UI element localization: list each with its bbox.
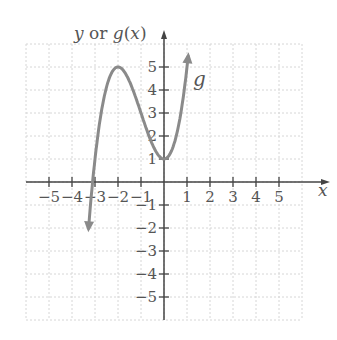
x-tick-label: 1	[182, 188, 192, 206]
x-tick-label: 4	[251, 188, 261, 206]
y-tick-label: 5	[147, 58, 157, 76]
y-tick-label: 4	[147, 81, 157, 99]
x-tick-label: 2	[205, 188, 215, 206]
x-tick-label: −2	[107, 188, 129, 206]
y-tick-label: 3	[147, 104, 157, 122]
y-tick-label: −5	[135, 288, 157, 306]
x-axis-label: x	[318, 180, 328, 200]
y-tick-label: −1	[135, 196, 157, 214]
x-tick-label: −3	[84, 188, 106, 206]
y-tick-label: −2	[135, 219, 157, 237]
function-graph: −5−4−3−2−11234554321−1−2−3−4−5 y or g(x)…	[0, 0, 337, 340]
x-tick-label: −4	[61, 188, 83, 206]
curve-label-g: g	[193, 67, 206, 91]
x-tick-label: 5	[274, 188, 284, 206]
y-tick-label: −3	[135, 242, 157, 260]
y-tick-label: −4	[135, 265, 157, 283]
y-axis-label: y or g(x)	[73, 23, 147, 43]
x-tick-label: 3	[228, 188, 238, 206]
x-tick-label: −5	[38, 188, 60, 206]
